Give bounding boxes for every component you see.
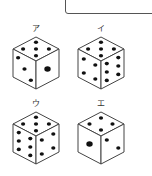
die-label-a: ア	[26, 24, 46, 34]
pip-icon	[34, 54, 38, 58]
pip-icon	[40, 152, 44, 156]
pip-icon	[28, 154, 32, 158]
pip-icon	[51, 132, 55, 136]
pip-icon	[47, 122, 51, 126]
pip-icon	[16, 56, 20, 60]
pip-icon	[40, 138, 44, 142]
pip-icon	[34, 129, 38, 133]
die-label-i: イ	[91, 24, 111, 34]
pip-icon	[99, 128, 103, 132]
pip-icon	[105, 79, 109, 83]
pip-icon	[22, 67, 26, 71]
pip-icon	[82, 57, 86, 61]
pip-icon	[17, 148, 21, 152]
die-label-e: エ	[91, 99, 111, 109]
pip-icon	[47, 47, 51, 51]
pip-icon	[99, 47, 103, 51]
pip-icon	[116, 56, 120, 60]
pip-icon	[51, 146, 55, 150]
pip-icon	[34, 41, 38, 45]
pip-icon	[116, 146, 120, 150]
pip-icon	[116, 64, 120, 68]
pip-icon	[110, 122, 114, 126]
pip-icon	[82, 71, 86, 75]
pip-icon	[21, 122, 25, 126]
pip-icon	[17, 139, 21, 143]
pip-icon	[17, 131, 21, 135]
pip-icon	[99, 116, 103, 120]
pip-icon	[93, 63, 97, 67]
pip-icon	[99, 54, 103, 58]
pip-icon	[44, 66, 50, 71]
pip-icon	[99, 41, 103, 45]
pip-icon	[34, 116, 38, 120]
die-label-u: ウ	[26, 99, 46, 109]
pip-icon	[28, 137, 32, 141]
die-u[interactable]	[11, 110, 61, 166]
pip-icon	[34, 122, 38, 126]
pip-icon	[87, 122, 91, 126]
answer-box[interactable]	[65, 0, 152, 14]
pip-icon	[28, 145, 32, 149]
pip-icon	[116, 73, 120, 77]
pip-icon	[105, 138, 109, 142]
pip-icon	[29, 78, 33, 82]
pip-icon	[105, 62, 109, 66]
die-i[interactable]	[76, 35, 126, 91]
pip-icon	[86, 141, 92, 146]
pip-icon	[112, 47, 116, 51]
pip-icon	[105, 70, 109, 74]
pip-icon	[21, 47, 25, 51]
pip-icon	[34, 47, 38, 51]
pip-icon	[93, 77, 97, 81]
die-a[interactable]	[11, 35, 61, 91]
pip-icon	[86, 47, 90, 51]
die-e[interactable]	[76, 110, 126, 166]
